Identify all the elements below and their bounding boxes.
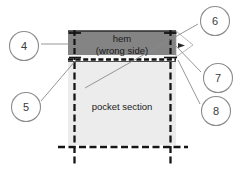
leader-8 — [178, 60, 200, 104]
diagram-canvas: 4 5 6 7 8 hem (wrong side) pocket sectio… — [0, 0, 244, 173]
callout-6-number: 6 — [212, 15, 218, 27]
hem-label: hem — [0, 33, 244, 44]
pocket-hem-diagram: 4 5 6 7 8 — [0, 0, 244, 173]
callout-7-number: 7 — [215, 72, 221, 84]
hem-wrong-side-label: (wrong side) — [0, 45, 244, 56]
callout-6[interactable]: 6 — [201, 7, 230, 36]
callout-7[interactable]: 7 — [204, 64, 233, 93]
pocket-section-label: pocket section — [0, 101, 244, 112]
